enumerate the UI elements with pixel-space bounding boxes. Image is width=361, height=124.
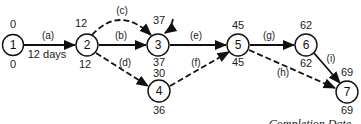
cpm-network-diagram: 1 2 3 4 5 6 7 0 0 12 12 37 37 30 36 45 4… — [0, 0, 361, 124]
node-2-late: 12 — [79, 58, 91, 70]
svg-text:7: 7 — [344, 85, 351, 99]
node-1-early: 0 — [10, 18, 16, 30]
node-6-early: 62 — [300, 19, 312, 31]
node-3: 3 — [147, 34, 169, 56]
completion-date-caption: Completion Date — [269, 117, 352, 124]
activity-h-label: (h) — [277, 67, 289, 78]
activity-a-duration: 12 days — [28, 48, 67, 60]
node-4-late: 36 — [153, 104, 165, 116]
node-5: 5 — [227, 34, 249, 56]
node-2-early: 12 — [75, 17, 87, 29]
node-2: 2 — [76, 34, 98, 56]
node-1: 1 — [3, 35, 24, 56]
activity-d-label: (d) — [119, 57, 131, 68]
node-1-late: 0 — [10, 58, 16, 70]
node-7-early: 69 — [341, 66, 353, 78]
activity-e-label: (e) — [190, 30, 202, 41]
activity-h-arrow — [249, 50, 335, 88]
svg-text:3: 3 — [155, 38, 162, 52]
activity-i-label: (i) — [327, 53, 336, 64]
activity-f-label: (f) — [191, 57, 200, 68]
node-5-late: 45 — [232, 56, 244, 68]
svg-text:2: 2 — [84, 38, 91, 52]
node-6: 6 — [295, 34, 317, 56]
node-7-late: 69 — [341, 104, 353, 116]
node-4-early: 30 — [153, 67, 165, 79]
activity-c-label: (c) — [116, 5, 128, 16]
node-3-early: 37 — [153, 14, 165, 26]
svg-text:4: 4 — [156, 84, 163, 98]
critical-pointer-arrow-icon — [165, 19, 173, 33]
activity-b-label: (b) — [115, 30, 127, 41]
svg-text:5: 5 — [235, 38, 242, 52]
activity-a-label: (a) — [42, 30, 54, 41]
node-7: 7 — [336, 81, 358, 103]
node-4: 4 — [148, 80, 170, 102]
svg-text:6: 6 — [303, 38, 310, 52]
node-5-early: 45 — [232, 19, 244, 31]
node-6-late: 62 — [300, 57, 312, 69]
svg-text:1: 1 — [10, 38, 17, 52]
activity-g-label: (g) — [263, 30, 275, 41]
